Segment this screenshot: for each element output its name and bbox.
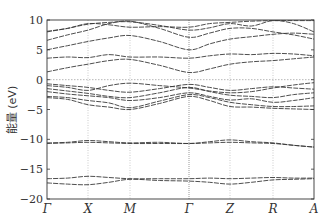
y-tick-label: −15 xyxy=(20,163,43,176)
band-line-band8 xyxy=(47,87,314,97)
band-line-band11 xyxy=(47,57,314,73)
band-line-band2 xyxy=(47,179,314,185)
x-axis-kpoint-labels: ΓXMΓZRA xyxy=(42,202,319,216)
band-line-band9 xyxy=(47,83,314,93)
kpoint-label: R xyxy=(267,202,277,216)
kpoint-label: M xyxy=(123,202,137,216)
y-tick-label: 5 xyxy=(36,44,43,57)
high-symmetry-gridlines xyxy=(88,20,273,199)
band-line-band12 xyxy=(47,53,314,58)
y-tick-label: −5 xyxy=(27,104,43,117)
band-line-band16 xyxy=(47,21,314,32)
kpoint-label: X xyxy=(83,202,93,216)
kpoint-label: Γ xyxy=(184,202,194,216)
band-structure-chart: 1050−5−10−15−20 ΓXMΓZRA 能量 (eV) xyxy=(0,0,330,223)
kpoint-label: Z xyxy=(225,202,235,216)
band-line-band5 xyxy=(47,96,314,109)
y-axis-label: 能量 (eV) xyxy=(5,86,19,134)
band-lines xyxy=(47,21,314,185)
band-line-band6 xyxy=(47,95,314,108)
kpoint-label: Γ xyxy=(42,202,52,216)
y-tick-label: −10 xyxy=(20,133,43,146)
band-line-band1 xyxy=(47,176,314,178)
kpoint-label: A xyxy=(309,202,319,216)
y-tick-label: −20 xyxy=(20,193,43,206)
plot-frame xyxy=(47,20,314,199)
y-tick-label: 10 xyxy=(29,14,43,27)
y-tick-label: 0 xyxy=(36,74,43,87)
y-axis-ticks: 1050−5−10−15−20 xyxy=(20,14,314,206)
